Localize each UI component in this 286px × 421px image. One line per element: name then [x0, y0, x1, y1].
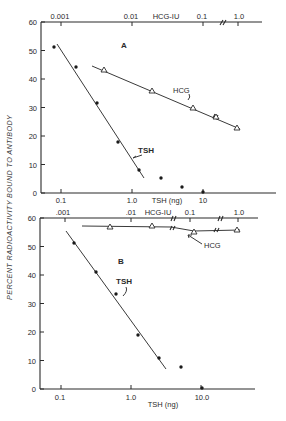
svg-text:10: 10	[29, 161, 37, 170]
svg-text:60: 60	[29, 18, 37, 27]
svg-text:.001: .001	[56, 208, 71, 217]
svg-text:1.0: 1.0	[234, 12, 244, 21]
svg-text:10.0: 10.0	[195, 393, 210, 402]
svg-text:0.1: 0.1	[55, 393, 65, 402]
svg-text:1.0: 1.0	[234, 208, 244, 217]
hcg-label-a: HCG	[173, 86, 190, 95]
hcg-arrow-icon	[188, 235, 202, 244]
x-ticks-bottom-a: 0.1 1.0 10	[56, 189, 207, 205]
hcg-label-b: HCG	[204, 241, 221, 250]
tsh-arrow-icon	[123, 287, 127, 296]
svg-text:30: 30	[28, 300, 36, 309]
svg-text:0.1: 0.1	[185, 208, 195, 217]
hcg-fit-line-a	[92, 66, 240, 129]
svg-text:0.01: 0.01	[124, 12, 139, 21]
svg-text:0: 0	[33, 189, 37, 198]
x-axis-title-top-b: HCG-IU	[145, 208, 172, 217]
svg-text:20: 20	[28, 328, 36, 337]
figure: PERCENT RADIOACTIVITY BOUND TO ANTIBODY …	[0, 0, 286, 421]
x-axis-title-bottom-b: TSH (ng)	[148, 400, 179, 409]
svg-text:40: 40	[28, 271, 36, 280]
panel-label-b: B	[118, 257, 124, 266]
svg-text:40: 40	[29, 75, 37, 84]
tsh-points-a	[52, 45, 204, 193]
y-axis-label: PERCENT RADIOACTIVITY BOUND TO ANTIBODY	[5, 114, 14, 300]
x-ticks-bottom-b: 0.1 1.0 10.0	[55, 385, 210, 402]
x-axis-title-bottom-a: TSH (ng)	[152, 196, 183, 205]
tsh-fit-line-a	[57, 44, 144, 178]
x-ticks-top-a: 0.001 0.01 0.1 1.0	[51, 12, 245, 26]
panel-b: 0 10 20 30 40 50 60 0.1 1.0 10.0 TSH (ng…	[28, 208, 258, 409]
line-break-icon	[214, 228, 219, 232]
svg-text:20: 20	[29, 132, 37, 141]
svg-text:10: 10	[199, 196, 207, 205]
svg-text:50: 50	[28, 243, 36, 252]
svg-text:50: 50	[29, 47, 37, 56]
y-ticks-b: 0 10 20 30 40 50 60	[28, 214, 44, 394]
tsh-points-b	[72, 241, 203, 389]
x-axis-title-top-a: HCG-IU	[153, 12, 180, 21]
svg-text:1.0: 1.0	[126, 393, 136, 402]
svg-text:10: 10	[28, 357, 36, 366]
svg-text:0.001: 0.001	[51, 12, 70, 21]
panel-label-a: A	[121, 41, 127, 50]
svg-text:.01: .01	[126, 208, 136, 217]
tsh-arrow-icon	[133, 155, 142, 158]
y-ticks-a: 0 10 20 30 40 50 60	[29, 18, 45, 198]
tsh-label-b: TSH	[116, 277, 132, 286]
svg-text:30: 30	[29, 104, 37, 113]
tsh-fit-line-b	[66, 231, 166, 369]
svg-text:0: 0	[32, 385, 36, 394]
svg-text:0.1: 0.1	[56, 196, 66, 205]
svg-text:60: 60	[28, 214, 36, 223]
tsh-label-a: TSH	[138, 146, 154, 155]
svg-text:1.0: 1.0	[127, 196, 137, 205]
panel-a: 0 10 20 30 40 50 60 0.1 1.0 10 TSH (ng) …	[29, 12, 276, 205]
svg-text:0.1: 0.1	[197, 12, 207, 21]
